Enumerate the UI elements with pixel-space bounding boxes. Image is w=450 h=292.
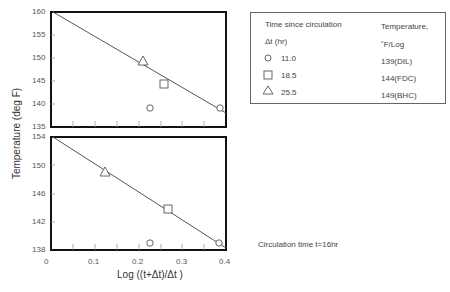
legend-markers [263, 53, 275, 105]
triangle-icon [263, 86, 273, 94]
square-marker [160, 80, 168, 88]
bottom-fit-line [53, 137, 226, 248]
legend-header-time: Time since circulation [265, 20, 342, 29]
legend-dt-18: 18.5 [281, 71, 297, 80]
square-marker [164, 205, 172, 213]
circle-icon [265, 55, 271, 61]
top-chart [51, 12, 226, 127]
legend-header-unit: ˚F/Log [381, 40, 404, 49]
legend-temp-dil: 139(DIL) [381, 57, 412, 66]
circle-marker [217, 105, 223, 111]
circulation-time-note: Circulation time t=16hr [258, 240, 338, 249]
circle-marker [147, 105, 153, 111]
square-icon [264, 71, 272, 79]
legend-header-dt: Δt (hr) [265, 37, 287, 46]
legend-header-temp: Temperature, [381, 22, 428, 31]
circle-marker [147, 240, 153, 246]
bottom-chart [51, 137, 226, 250]
legend-temp-fdc: 144(FDC) [381, 74, 416, 83]
triangle-marker [138, 56, 148, 65]
legend-dt-11: 11.0 [281, 54, 296, 63]
legend-dt-25: 25.5 [281, 88, 297, 97]
circle-marker [216, 240, 222, 246]
legend-temp-bhc: 149(BHC) [381, 91, 417, 100]
legend: Time since circulation Δt (hr) Temperatu… [250, 12, 446, 104]
